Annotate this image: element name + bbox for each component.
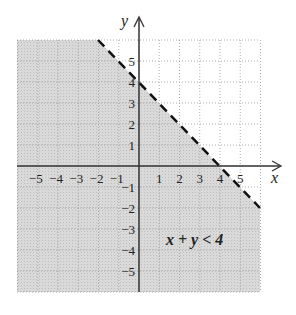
x-tick-label: −5 xyxy=(29,171,43,186)
inequality-graph: x y −5−4−3−2−112345 54321−1−2−3−4−5 x + … xyxy=(0,0,296,315)
y-tick-label: 1 xyxy=(129,138,136,153)
y-tick-label: 5 xyxy=(129,54,136,69)
x-tick-label: 4 xyxy=(217,171,224,186)
y-tick-label: 4 xyxy=(129,75,136,90)
y-tick-label: −2 xyxy=(121,201,135,216)
inequality-label: x + y < 4 xyxy=(165,231,223,249)
x-tick-label: −4 xyxy=(49,171,63,186)
y-tick-label: −1 xyxy=(121,180,135,195)
x-tick-label: −2 xyxy=(90,171,104,186)
x-axis-label: x xyxy=(270,169,278,186)
y-tick-label: 2 xyxy=(129,117,136,132)
y-tick-label: −5 xyxy=(121,264,135,279)
x-tick-label: 5 xyxy=(237,171,244,186)
x-tick-label: 3 xyxy=(197,171,204,186)
x-tick-label: 2 xyxy=(176,171,183,186)
y-axis-label: y xyxy=(119,12,129,30)
y-tick-label: −4 xyxy=(121,243,135,258)
y-tick-label: 3 xyxy=(129,96,136,111)
x-tick-label: 1 xyxy=(156,171,163,186)
y-tick-label: −3 xyxy=(121,222,135,237)
x-tick-label: −3 xyxy=(69,171,83,186)
